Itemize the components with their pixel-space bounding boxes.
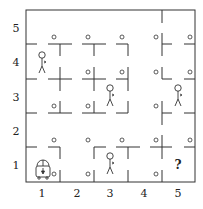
x-axis-label-3: 3	[107, 187, 114, 200]
y-axis-label-4: 4	[13, 56, 20, 69]
x-axis-label-2: 2	[74, 187, 81, 200]
y-axis-label-2: 2	[13, 125, 20, 138]
person-icon	[175, 85, 182, 106]
robot-icon	[36, 160, 50, 179]
grid-world-diagram: ? 5 4 3 2 1 1 2 3 4 5	[0, 0, 203, 209]
unknown-cell-label: ?	[174, 158, 181, 172]
outer-border	[26, 10, 195, 182]
x-axis-label-5: 5	[175, 187, 182, 200]
person-icon	[107, 153, 114, 174]
grid-svg	[0, 0, 203, 209]
y-axis-label-5: 5	[13, 22, 20, 35]
y-axis-label-1: 1	[13, 159, 20, 172]
grid-walls	[26, 10, 195, 182]
person-icon	[107, 85, 114, 106]
circle-marker-icons	[52, 35, 192, 176]
person-icon	[39, 52, 46, 73]
x-axis-label-4: 4	[141, 187, 148, 200]
y-axis-label-3: 3	[13, 91, 20, 104]
x-axis-label-1: 1	[39, 187, 46, 200]
